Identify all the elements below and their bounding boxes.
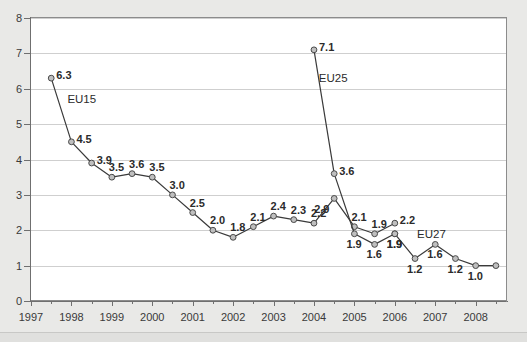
x-tick-label: 2007 (412, 311, 458, 323)
x-tick-mark-minor (92, 301, 93, 304)
y-tick-mark (24, 301, 30, 302)
y-tick-mark (24, 89, 30, 90)
x-tick-mark (476, 301, 477, 306)
x-tick-label: 2003 (251, 311, 297, 323)
point-value-label: 1.9 (387, 239, 402, 250)
x-tick-mark (193, 301, 194, 306)
x-tick-label: 2002 (210, 311, 256, 323)
x-tick-label: 1999 (89, 311, 135, 323)
x-tick-label: 2005 (331, 311, 377, 323)
series-label-eu15: EU15 (67, 93, 96, 105)
gridline (31, 18, 506, 19)
y-tick-mark (24, 18, 30, 19)
point-value-label: 1.2 (447, 264, 462, 275)
gridline (31, 266, 506, 267)
y-tick-label: 1 (2, 261, 22, 272)
x-tick-mark-minor (496, 301, 497, 304)
x-tick-mark (354, 301, 355, 306)
point-value-label: 1.8 (230, 222, 245, 233)
series-label-eu25: EU25 (319, 72, 348, 84)
y-tick-label: 4 (2, 155, 22, 166)
y-tick-mark (24, 160, 30, 161)
x-tick-mark (233, 301, 234, 306)
x-tick-mark-minor (253, 301, 254, 304)
y-tick-label: 2 (2, 225, 22, 236)
gridline (31, 124, 506, 125)
x-tick-mark (395, 301, 396, 306)
x-tick-mark-minor (334, 301, 335, 304)
x-tick-label: 1998 (48, 311, 94, 323)
point-value-label: 3.0 (169, 180, 184, 191)
y-tick-label: 8 (2, 13, 22, 24)
y-tick-label: 7 (2, 48, 22, 59)
point-value-label: 7.1 (319, 42, 334, 53)
gridline (31, 89, 506, 90)
point-value-label: 1.6 (367, 249, 382, 260)
x-tick-label: 2001 (170, 311, 216, 323)
point-value-label: 1.9 (346, 239, 361, 250)
x-tick-mark-minor (375, 301, 376, 304)
y-tick-mark (24, 266, 30, 267)
point-value-label: 1.2 (407, 264, 422, 275)
x-tick-label: 2000 (129, 311, 175, 323)
y-axis (30, 17, 31, 302)
point-value-label: 4.5 (76, 134, 91, 145)
point-value-label: 3.5 (109, 162, 124, 173)
point-value-label: 1.9 (372, 219, 387, 230)
point-value-label: 2.1 (250, 212, 265, 223)
x-tick-mark (71, 301, 72, 306)
x-tick-mark (31, 301, 32, 306)
x-tick-label: 2008 (453, 311, 499, 323)
y-tick-label: 0 (2, 296, 22, 307)
y-tick-label: 5 (2, 119, 22, 130)
x-tick-label: 2004 (291, 311, 337, 323)
y-tick-mark (24, 53, 30, 54)
x-tick-mark-minor (294, 301, 295, 304)
x-tick-mark (435, 301, 436, 306)
gridline (31, 53, 506, 54)
point-value-label: 2.4 (271, 201, 286, 212)
x-tick-mark-minor (51, 301, 52, 304)
point-value-label: 2.9 (314, 204, 329, 215)
x-tick-mark (152, 301, 153, 306)
x-tick-label: 2006 (372, 311, 418, 323)
point-value-label: 6.3 (56, 70, 71, 81)
point-value-label: 2.2 (400, 215, 415, 226)
x-tick-mark (274, 301, 275, 306)
bottom-strip (0, 332, 527, 342)
x-tick-mark-minor (455, 301, 456, 304)
x-tick-mark (314, 301, 315, 306)
y-tick-mark (24, 195, 30, 196)
point-value-label: 2.1 (351, 212, 366, 223)
point-value-label: 3.6 (129, 159, 144, 170)
gridline (31, 195, 506, 196)
x-axis (30, 301, 508, 302)
point-value-label: 2.3 (291, 205, 306, 216)
x-tick-label: 1997 (8, 311, 54, 323)
right-axis-border (506, 17, 507, 302)
x-tick-mark-minor (132, 301, 133, 304)
x-tick-mark (112, 301, 113, 306)
point-value-label: 3.6 (339, 166, 354, 177)
y-tick-mark (24, 230, 30, 231)
y-tick-mark (24, 124, 30, 125)
point-value-label: 2.5 (190, 198, 205, 209)
y-tick-label: 3 (2, 190, 22, 201)
point-value-label: 2.0 (210, 215, 225, 226)
point-value-label: 3.5 (149, 162, 164, 173)
point-value-label: 1.6 (427, 249, 442, 260)
cropped-title (0, 0, 527, 6)
x-tick-mark-minor (172, 301, 173, 304)
x-tick-mark-minor (213, 301, 214, 304)
x-tick-mark-minor (415, 301, 416, 304)
series-label-eu27: EU27 (417, 228, 446, 240)
y-tick-label: 6 (2, 84, 22, 95)
point-value-label: 1.0 (468, 271, 483, 282)
